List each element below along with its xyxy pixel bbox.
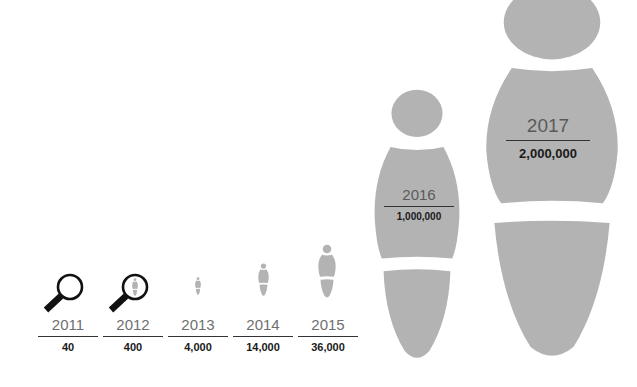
person-icon-2016 [373,88,461,360]
label-2014: 2014 14,000 [233,316,293,354]
magnifier-icon-2011 [40,272,86,314]
label-2015: 2015 36,000 [298,316,358,354]
value-label: 4,000 [168,341,228,354]
label-2011: 2011 40 [38,316,98,354]
person-icon-2017 [485,0,619,362]
divider [384,206,454,207]
label-2017: 2017 2,000,000 [506,115,590,161]
year-label: 2017 [506,115,590,137]
value-label: 400 [103,341,163,354]
divider [38,336,98,337]
divider [103,336,163,337]
magnifier-icon-2012 [105,272,151,314]
year-label: 2012 [103,316,163,334]
label-2016: 2016 1,000,000 [384,186,454,223]
value-label: 40 [38,341,98,354]
divider [298,336,358,337]
value-label: 2,000,000 [506,146,590,161]
label-2012: 2012 400 [103,316,163,354]
label-2013: 2013 4,000 [168,316,228,354]
year-label: 2011 [38,316,98,334]
divider [506,140,590,141]
divider [168,336,228,337]
value-label: 14,000 [233,341,293,354]
person-icon-2014 [258,263,269,296]
value-label: 1,000,000 [384,211,454,223]
year-label: 2015 [298,316,358,334]
person-icon-2013 [195,277,201,295]
year-label: 2013 [168,316,228,334]
person-icon-2015 [318,244,336,298]
year-label: 2014 [233,316,293,334]
value-label: 36,000 [298,341,358,354]
divider [233,336,293,337]
year-label: 2016 [384,186,454,204]
